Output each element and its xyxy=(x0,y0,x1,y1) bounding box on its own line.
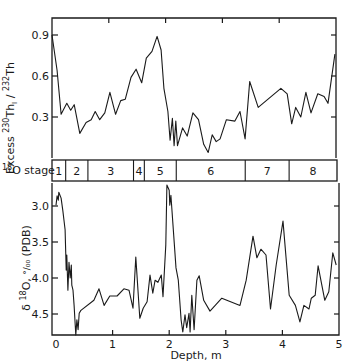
stage-band-frame xyxy=(52,160,337,181)
chart-figure: 0.30.60.9 Excess 230ThI / 232Th 18O stag… xyxy=(0,0,343,363)
x-axis-label-depth: Depth, m xyxy=(170,349,221,362)
bottom-ytick-label: 3.0 xyxy=(32,200,50,213)
bottom-ytick-label: 4.5 xyxy=(32,308,50,321)
bottom-ytick-label: 4.0 xyxy=(32,272,50,285)
bottom-xtick-label: 3 xyxy=(222,338,229,351)
stage-band-label: 18O stage xyxy=(2,163,55,177)
stage-cell-label-4: 4 xyxy=(135,165,142,178)
stage-cell-label-7: 7 xyxy=(264,165,271,178)
top-panel-frame xyxy=(52,18,336,158)
stage-cell-label-6: 6 xyxy=(207,165,214,178)
stage-cell-label-1: 1 xyxy=(55,165,62,178)
stage-cells: 12345678 xyxy=(52,160,337,181)
top-data-line xyxy=(52,35,335,153)
bottom-xtick-label: 5 xyxy=(336,338,343,351)
top-ytick-label: 0.6 xyxy=(32,70,50,83)
top-y-axis-ticks: 0.30.60.9 xyxy=(32,29,337,124)
top-ytick-label: 0.3 xyxy=(32,111,50,124)
bottom-xtick-label: 4 xyxy=(279,338,286,351)
stage-cell-label-3: 3 xyxy=(107,165,114,178)
stage-cell-label-5: 5 xyxy=(157,165,164,178)
bottom-data-line xyxy=(56,185,336,335)
bottom-y-axis-label: δ 18O, °/₀₀ (PDB) xyxy=(19,225,33,311)
stage-cell-label-2: 2 xyxy=(73,165,80,178)
bottom-xtick-label: 0 xyxy=(53,338,60,351)
bottom-x-axis-ticks: 012345 xyxy=(53,330,343,351)
bottom-y-axis-ticks: 3.03.54.04.5 xyxy=(32,200,340,321)
bottom-ytick-label: 3.5 xyxy=(32,236,50,249)
top-ytick-label: 0.9 xyxy=(32,29,50,42)
isotope-stage-band: 18O stage 12345678 xyxy=(2,160,337,181)
top-x-axis-ticks xyxy=(109,18,279,23)
bottom-panel-delta-o18: 3.03.54.04.5 012345 δ 18O, °/₀₀ (PDB) De… xyxy=(19,183,343,362)
top-y-axis-label: Excess 230ThI / 232Th xyxy=(2,62,19,174)
bottom-xtick-label: 1 xyxy=(109,338,116,351)
stage-cell-label-8: 8 xyxy=(310,165,317,178)
top-panel-excess-thorium: 0.30.60.9 Excess 230ThI / 232Th xyxy=(2,18,336,174)
